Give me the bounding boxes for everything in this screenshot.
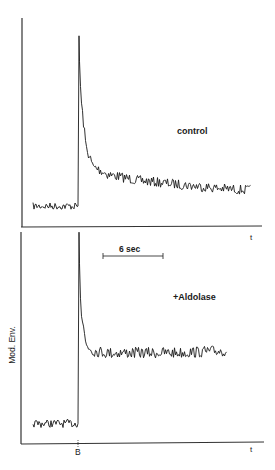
scale-bar: 6 sec — [103, 244, 163, 259]
x-axis-label-top: t — [250, 233, 253, 242]
scale-bar-label: 6 sec — [119, 244, 141, 254]
x-axis-top — [21, 226, 262, 227]
x-axis-bottom — [21, 442, 264, 444]
trace-control — [33, 36, 251, 209]
y-axis-label: Mod. Env. — [7, 326, 17, 364]
panel-aldolase: 6 sec +Aldolase Mod. Env. B t — [7, 232, 264, 457]
x-axis-label-bottom: t — [250, 445, 253, 454]
trace-aldolase — [33, 232, 227, 427]
figure: control t 6 sec +Aldolase Mod. Env. B t — [0, 0, 275, 470]
condition-label-aldolase: +Aldolase — [173, 292, 216, 302]
event-marker-b: B — [75, 447, 81, 457]
panel-control: control t — [21, 18, 262, 242]
condition-label-control: control — [177, 126, 208, 136]
